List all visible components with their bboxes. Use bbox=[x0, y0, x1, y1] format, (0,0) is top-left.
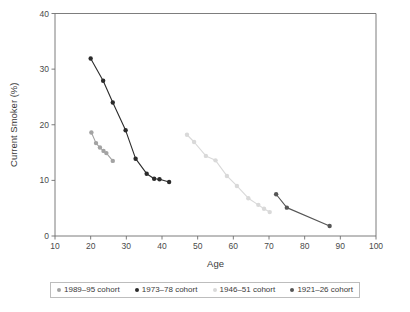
series-1 bbox=[89, 130, 115, 163]
x-tick-label: 20 bbox=[86, 241, 96, 251]
legend-item-3[interactable]: 1946–51 cohort bbox=[213, 286, 276, 294]
data-point bbox=[152, 177, 156, 181]
data-point bbox=[157, 177, 161, 181]
data-point bbox=[327, 224, 331, 228]
data-point bbox=[88, 56, 92, 60]
y-tick-label: 30 bbox=[40, 64, 50, 74]
x-tick-label: 100 bbox=[369, 241, 383, 251]
data-point bbox=[123, 128, 127, 132]
data-point bbox=[101, 79, 105, 83]
data-point bbox=[111, 159, 115, 163]
legend-label: 1973–78 cohort bbox=[142, 286, 198, 294]
data-point bbox=[185, 133, 189, 137]
data-point bbox=[104, 151, 108, 155]
x-tick-label: 90 bbox=[336, 241, 346, 251]
legend-label: 1921–26 cohort bbox=[297, 286, 353, 294]
data-point bbox=[133, 156, 137, 160]
data-point bbox=[89, 130, 93, 134]
data-point bbox=[285, 205, 289, 209]
data-point bbox=[111, 100, 115, 104]
series-layer bbox=[88, 56, 331, 228]
data-point bbox=[144, 172, 148, 176]
data-point bbox=[94, 141, 98, 145]
legend-marker-icon bbox=[57, 288, 61, 292]
x-tick-label: 30 bbox=[122, 241, 132, 251]
data-point bbox=[235, 184, 239, 188]
series-2 bbox=[88, 56, 171, 184]
data-point bbox=[268, 210, 272, 214]
y-tick-label: 40 bbox=[40, 9, 50, 19]
data-point bbox=[204, 154, 208, 158]
x-axis-title: Age bbox=[207, 258, 224, 269]
x-tick-label: 70 bbox=[264, 241, 274, 251]
scatter-line-chart: 010203040 102030405060708090100 Age Curr… bbox=[0, 0, 410, 312]
data-point bbox=[274, 192, 278, 196]
legend-label: 1989–95 cohort bbox=[64, 286, 120, 294]
data-point bbox=[213, 158, 217, 162]
data-point bbox=[262, 207, 266, 211]
series-4 bbox=[274, 192, 332, 228]
legend-item-1[interactable]: 1989–95 cohort bbox=[57, 286, 120, 294]
legend-item-4[interactable]: 1921–26 cohort bbox=[290, 286, 353, 294]
series-3 bbox=[185, 133, 272, 215]
data-point bbox=[192, 140, 196, 144]
series-line bbox=[91, 59, 169, 182]
series-line bbox=[91, 133, 112, 161]
y-axis-ticks: 010203040 bbox=[40, 9, 55, 242]
x-tick-label: 10 bbox=[50, 241, 60, 251]
data-point bbox=[98, 145, 102, 149]
legend-marker-icon bbox=[135, 288, 139, 292]
x-tick-label: 80 bbox=[300, 241, 310, 251]
y-axis-title: Current Smoker (%) bbox=[8, 83, 19, 167]
series-line bbox=[187, 135, 270, 212]
series-line bbox=[276, 194, 330, 226]
y-tick-label: 0 bbox=[44, 231, 49, 241]
y-tick-label: 20 bbox=[40, 120, 50, 130]
legend-marker-icon bbox=[290, 288, 294, 292]
x-tick-label: 50 bbox=[193, 241, 203, 251]
data-point bbox=[167, 180, 171, 184]
x-axis-ticks: 102030405060708090100 bbox=[50, 236, 383, 251]
plot-frame bbox=[55, 14, 376, 237]
data-point bbox=[225, 174, 229, 178]
legend-item-2[interactable]: 1973–78 cohort bbox=[135, 286, 198, 294]
legend-marker-icon bbox=[213, 288, 217, 292]
x-tick-label: 60 bbox=[229, 241, 239, 251]
legend-label: 1946–51 cohort bbox=[220, 286, 276, 294]
y-tick-label: 10 bbox=[40, 175, 50, 185]
data-point bbox=[246, 196, 250, 200]
data-point bbox=[256, 203, 260, 207]
x-tick-label: 40 bbox=[157, 241, 167, 251]
chart-legend: 1989–95 cohort1973–78 cohort1946–51 coho… bbox=[50, 282, 360, 298]
chart-figure: 010203040 102030405060708090100 Age Curr… bbox=[0, 0, 410, 312]
